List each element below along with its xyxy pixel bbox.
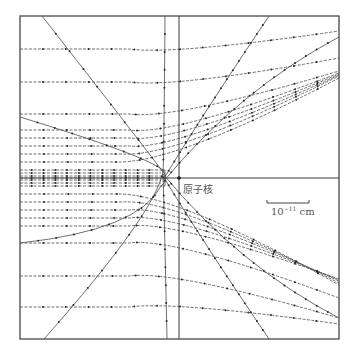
time-marker bbox=[233, 246, 235, 248]
time-marker bbox=[78, 182, 80, 184]
time-marker bbox=[273, 76, 275, 78]
time-marker bbox=[43, 217, 45, 219]
time-marker bbox=[125, 175, 127, 177]
time-marker bbox=[54, 175, 56, 177]
time-marker bbox=[206, 123, 208, 125]
time-marker bbox=[141, 215, 143, 217]
time-marker bbox=[225, 309, 227, 311]
time-marker bbox=[73, 233, 75, 235]
time-marker bbox=[55, 237, 57, 239]
time-marker bbox=[113, 185, 115, 187]
time-marker bbox=[220, 266, 222, 268]
time-marker bbox=[232, 69, 234, 71]
time-marker bbox=[168, 184, 170, 186]
time-marker bbox=[316, 305, 318, 307]
time-marker bbox=[31, 185, 33, 187]
time-marker bbox=[148, 182, 150, 184]
time-marker bbox=[252, 119, 254, 121]
nucleus-dot bbox=[177, 176, 181, 180]
time-marker bbox=[54, 179, 56, 181]
time-marker bbox=[158, 275, 160, 277]
time-marker bbox=[43, 185, 45, 187]
time-marker bbox=[164, 230, 166, 232]
time-marker bbox=[224, 116, 226, 118]
time-marker bbox=[136, 130, 138, 132]
time-marker bbox=[226, 78, 228, 80]
time-marker bbox=[108, 223, 110, 225]
time-marker bbox=[179, 151, 181, 153]
time-marker bbox=[273, 100, 275, 102]
time-marker bbox=[196, 143, 198, 145]
scale-exponent: −11 bbox=[284, 205, 297, 212]
time-marker bbox=[228, 111, 230, 113]
time-marker bbox=[90, 209, 92, 211]
time-marker bbox=[66, 217, 68, 219]
time-marker bbox=[273, 251, 275, 253]
time-marker bbox=[42, 275, 44, 277]
time-marker bbox=[179, 48, 181, 50]
time-marker bbox=[112, 225, 114, 227]
time-marker bbox=[112, 113, 114, 115]
time-marker bbox=[87, 287, 89, 289]
time-marker bbox=[115, 201, 117, 203]
time-marker bbox=[253, 92, 255, 94]
time-marker bbox=[101, 177, 103, 179]
time-marker bbox=[231, 228, 233, 230]
time-marker bbox=[148, 177, 150, 179]
time-marker bbox=[248, 72, 250, 74]
time-marker bbox=[116, 193, 118, 195]
time-marker bbox=[43, 169, 45, 171]
time-marker bbox=[316, 80, 318, 82]
time-marker bbox=[58, 321, 60, 323]
time-marker bbox=[42, 113, 44, 115]
time-marker bbox=[42, 306, 44, 308]
time-marker bbox=[185, 146, 187, 148]
time-marker bbox=[148, 172, 150, 174]
time-marker bbox=[173, 161, 175, 163]
time-marker bbox=[90, 182, 92, 184]
time-marker bbox=[207, 226, 209, 228]
time-marker bbox=[316, 77, 318, 79]
time-marker bbox=[295, 99, 297, 101]
time-marker bbox=[205, 117, 207, 119]
time-marker bbox=[294, 292, 296, 294]
time-marker bbox=[31, 172, 33, 174]
time-marker bbox=[160, 219, 162, 221]
time-marker bbox=[90, 175, 92, 177]
time-marker bbox=[67, 161, 69, 163]
time-marker bbox=[270, 69, 272, 71]
time-marker bbox=[113, 179, 115, 181]
time-marker bbox=[223, 237, 225, 239]
time-marker bbox=[283, 284, 285, 286]
time-marker bbox=[37, 240, 39, 242]
time-marker bbox=[233, 108, 235, 110]
time-marker bbox=[78, 177, 80, 179]
time-marker bbox=[295, 96, 297, 98]
time-marker bbox=[161, 142, 163, 144]
time-marker bbox=[114, 145, 116, 147]
scale-bar-label: 10−11 cm bbox=[271, 205, 315, 217]
time-marker bbox=[250, 108, 252, 110]
time-marker bbox=[183, 130, 185, 132]
time-marker bbox=[232, 284, 234, 286]
time-marker bbox=[187, 202, 189, 204]
time-marker bbox=[43, 175, 45, 177]
time-marker bbox=[90, 169, 92, 171]
time-marker bbox=[134, 82, 136, 84]
time-marker bbox=[66, 185, 68, 187]
time-marker bbox=[140, 157, 142, 159]
time-marker bbox=[244, 51, 246, 53]
time-marker bbox=[182, 230, 184, 232]
time-marker bbox=[43, 161, 45, 163]
time-marker bbox=[66, 179, 68, 181]
time-marker bbox=[82, 68, 84, 70]
time-marker bbox=[170, 171, 172, 173]
time-marker bbox=[163, 105, 165, 107]
time-marker bbox=[43, 193, 45, 195]
time-marker bbox=[43, 177, 45, 179]
time-marker bbox=[88, 275, 90, 277]
time-marker bbox=[316, 311, 318, 313]
time-marker bbox=[113, 177, 115, 179]
time-marker bbox=[101, 169, 103, 171]
time-marker bbox=[78, 179, 80, 181]
